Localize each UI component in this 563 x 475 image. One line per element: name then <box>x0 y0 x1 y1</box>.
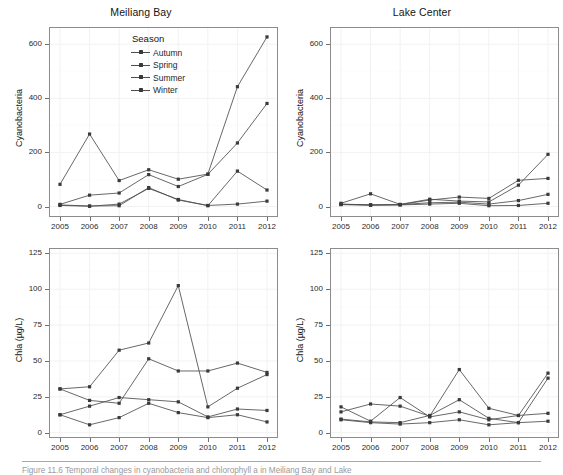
data-point <box>118 396 121 399</box>
y-tick-label: 100 <box>9 284 42 293</box>
x-tick-mark <box>267 438 268 442</box>
series-line-winter <box>60 171 267 206</box>
y-tick-label: 125 <box>9 248 42 257</box>
x-tick-label: 2008 <box>414 443 446 452</box>
data-point <box>517 199 520 202</box>
x-tick-mark <box>60 438 61 442</box>
data-point <box>206 369 209 372</box>
y-tick-mark <box>45 152 49 153</box>
data-point <box>369 420 372 423</box>
plot-area-bottom-left <box>49 248 278 438</box>
data-point <box>399 421 402 424</box>
data-point <box>458 368 461 371</box>
y-tick-mark <box>326 253 330 254</box>
data-point <box>546 412 549 415</box>
x-tick-mark <box>178 438 179 442</box>
x-tick-mark <box>90 217 91 221</box>
data-point <box>487 423 490 426</box>
legend-title: Season <box>131 33 185 44</box>
y-tick-label: 50 <box>290 356 323 365</box>
x-tick-mark <box>459 217 460 221</box>
data-point <box>487 203 490 206</box>
y-tick-mark <box>45 325 49 326</box>
data-point <box>236 413 239 416</box>
panel-top-right: Lake Center Cyanobacteria 02004006002005… <box>281 6 563 238</box>
y-tick-label: 0 <box>9 202 42 211</box>
x-tick-mark <box>237 217 238 221</box>
data-point <box>88 399 91 402</box>
x-tick-label: 2009 <box>162 443 194 452</box>
data-point <box>428 421 431 424</box>
x-tick-label: 2007 <box>384 222 416 231</box>
data-point <box>206 405 209 408</box>
x-tick-label: 2010 <box>473 222 505 231</box>
y-tick-label: 200 <box>290 147 323 156</box>
x-tick-mark <box>208 217 209 221</box>
data-point <box>265 420 268 423</box>
panel-bottom-right: Chla (µg/L) 0255075100125200520062007200… <box>281 240 563 460</box>
panel-bottom-left: Chla (µg/L) 0255075100125200520062007200… <box>0 240 282 460</box>
data-point <box>236 203 239 206</box>
data-point <box>147 398 150 401</box>
x-tick-mark <box>90 438 91 442</box>
data-point <box>265 102 268 105</box>
legend-item-spring[interactable]: Spring <box>131 60 185 71</box>
data-point <box>487 407 490 410</box>
x-tick-label: 2010 <box>192 443 224 452</box>
data-point <box>58 204 61 207</box>
data-point <box>88 194 91 197</box>
data-point <box>265 188 268 191</box>
data-point <box>369 192 372 195</box>
data-point <box>118 203 121 206</box>
x-tick-mark <box>149 217 150 221</box>
data-point <box>369 402 372 405</box>
data-point <box>118 179 121 182</box>
y-tick-label: 25 <box>9 392 42 401</box>
data-point <box>88 385 91 388</box>
y-tick-mark <box>326 44 330 45</box>
y-axis-label-chla-right: Chla (µg/L) <box>295 280 305 400</box>
data-point <box>236 141 239 144</box>
x-tick-mark <box>119 217 120 221</box>
x-tick-label: 2005 <box>44 443 76 452</box>
y-tick-mark <box>45 289 49 290</box>
x-tick-label: 2011 <box>502 222 534 231</box>
plot-area-top-right <box>330 27 559 217</box>
x-tick-label: 2007 <box>384 443 416 452</box>
y-tick-mark <box>326 98 330 99</box>
data-point <box>236 170 239 173</box>
legend-item-autumn[interactable]: Autumn <box>131 47 185 58</box>
data-point <box>177 178 180 181</box>
panel-title-lake-center: Lake Center <box>281 6 563 18</box>
data-point <box>58 387 61 390</box>
data-point <box>236 85 239 88</box>
x-tick-label: 2005 <box>325 443 357 452</box>
data-point <box>88 205 91 208</box>
series-line-autumn <box>341 370 548 417</box>
x-tick-label: 2008 <box>414 222 446 231</box>
data-point <box>236 387 239 390</box>
x-tick-label: 2006 <box>74 443 106 452</box>
y-tick-mark <box>326 433 330 434</box>
data-point <box>546 177 549 180</box>
data-point <box>517 179 520 182</box>
legend-item-winter[interactable]: Winter <box>131 85 185 96</box>
y-tick-label: 0 <box>9 428 42 437</box>
data-point <box>517 184 520 187</box>
data-point <box>88 405 91 408</box>
y-tick-mark <box>326 289 330 290</box>
data-point <box>546 372 549 375</box>
data-point <box>147 357 150 360</box>
data-point <box>118 349 121 352</box>
legend-season: Season AutumnSpringSummerWinter <box>131 33 185 97</box>
x-tick-label: 2011 <box>221 222 253 231</box>
x-tick-mark <box>548 438 549 442</box>
data-point <box>546 193 549 196</box>
data-point <box>58 183 61 186</box>
data-point <box>177 369 180 372</box>
x-tick-label: 2006 <box>355 222 387 231</box>
x-tick-label: 2009 <box>443 443 475 452</box>
x-tick-label: 2012 <box>532 222 563 231</box>
legend-item-summer[interactable]: Summer <box>131 72 185 83</box>
data-point <box>236 361 239 364</box>
